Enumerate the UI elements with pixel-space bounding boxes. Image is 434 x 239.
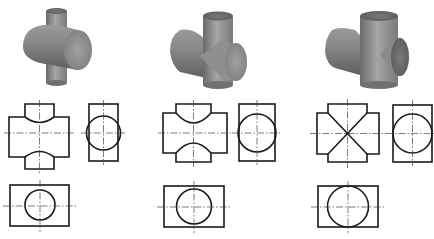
case-3-3d-model [325, 11, 409, 89]
case-3-top-view [311, 181, 385, 233]
case-3-side-view [386, 100, 434, 166]
vertical-cylinder-top [46, 8, 67, 14]
vertical-cylinder-top [360, 11, 398, 21]
case-3 [310, 11, 434, 233]
horizontal-cylinder-end [64, 30, 92, 70]
case-1-3d-model [23, 8, 92, 86]
horizontal-cylinder-end [391, 38, 409, 76]
intersecting-cylinders-figure [0, 0, 434, 239]
case-2-3d-model [170, 12, 247, 90]
case-3-front-view [310, 99, 386, 168]
case-2-side-view [232, 100, 282, 165]
horizontal-cylinder-end [225, 43, 247, 81]
case-1-top-view [3, 180, 76, 232]
case-2 [157, 12, 282, 234]
vertical-cylinder-top [203, 12, 233, 21]
horizontal-cylinder [325, 28, 365, 75]
case-1-front-view [4, 100, 74, 173]
case-2-front-view [158, 100, 232, 167]
case-1-side-view [81, 100, 125, 165]
case-1 [3, 8, 125, 232]
case-2-top-view [157, 181, 231, 233]
